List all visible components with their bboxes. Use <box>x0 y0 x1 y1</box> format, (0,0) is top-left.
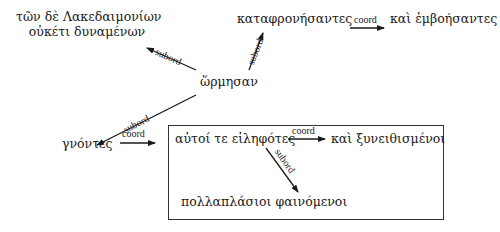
label-coord-eilephotes: coord <box>292 126 315 136</box>
node-gnontes: γνόντες <box>62 136 113 151</box>
node-lakedaimonion: τῶν δὲ Λακεδαιμονίων οὐκέτι δυναμένων <box>16 9 158 39</box>
node-kataphronesantes: καταφρονήσαντες <box>237 11 352 26</box>
node-pollaplasioi: πολλαπλάσιοι φαινόμενοι <box>181 194 347 209</box>
label-coord-gnontes: coord <box>122 129 145 139</box>
node-eilephotes: αὐτοί τε εἰληφότες <box>175 131 295 146</box>
label-coord-kataphron: coord <box>354 15 377 25</box>
node-lakedaimonion-line1: τῶν δὲ Λακεδαιμονίων <box>16 9 158 24</box>
node-root-hormesan: ὥρμησαν <box>200 74 258 89</box>
node-lakedaimonion-line2: οὐκέτι δυναμένων <box>16 24 158 39</box>
node-xyneithismenoi: καὶ ξυνειθισμένοι <box>331 131 445 146</box>
node-emboesantes: καὶ ἐμβοήσαντες <box>390 11 497 26</box>
